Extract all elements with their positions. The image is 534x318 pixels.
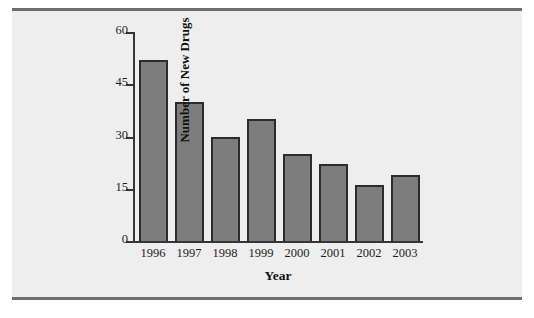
bar-slot — [207, 32, 243, 241]
figure-top-rule — [12, 8, 522, 11]
y-axis-title: Number of New Drugs — [177, 0, 193, 180]
figure-container: 015304560 Number of New Drugs 1996199719… — [0, 0, 534, 318]
bar-2000[interactable] — [283, 154, 312, 241]
y-tick-label: 30 — [116, 128, 129, 143]
x-tick-label: 2001 — [315, 246, 351, 261]
bar-slot — [243, 32, 279, 241]
y-tick-label: 0 — [122, 232, 128, 247]
bar-1999[interactable] — [247, 119, 276, 241]
x-axis-tick-labels: 19961997199819992000200120022003 — [135, 246, 423, 261]
x-tick-label: 2003 — [387, 246, 423, 261]
bar-1998[interactable] — [211, 137, 240, 242]
bar-slot — [351, 32, 387, 241]
x-tick-label: 1997 — [171, 246, 207, 261]
bar-slot — [135, 32, 171, 241]
x-axis-title: Year — [133, 268, 423, 284]
bar-slot — [315, 32, 351, 241]
x-tick-label: 2002 — [351, 246, 387, 261]
y-tick-label: 45 — [116, 75, 129, 90]
x-tick-label: 2000 — [279, 246, 315, 261]
y-tick-label: 60 — [116, 23, 129, 38]
plot-area: 015304560 Number of New Drugs — [133, 32, 423, 243]
bar-2001[interactable] — [319, 164, 348, 241]
y-tick-label: 15 — [116, 180, 129, 195]
bar-slot — [279, 32, 315, 241]
bar-2003[interactable] — [391, 175, 420, 241]
bar-2002[interactable] — [355, 185, 384, 241]
x-tick-label: 1996 — [135, 246, 171, 261]
bar-1996[interactable] — [139, 60, 168, 241]
x-tick-label: 1998 — [207, 246, 243, 261]
bar-slot — [387, 32, 423, 241]
x-tick-label: 1999 — [243, 246, 279, 261]
x-axis-line — [133, 241, 423, 243]
figure-bottom-rule — [12, 297, 522, 300]
